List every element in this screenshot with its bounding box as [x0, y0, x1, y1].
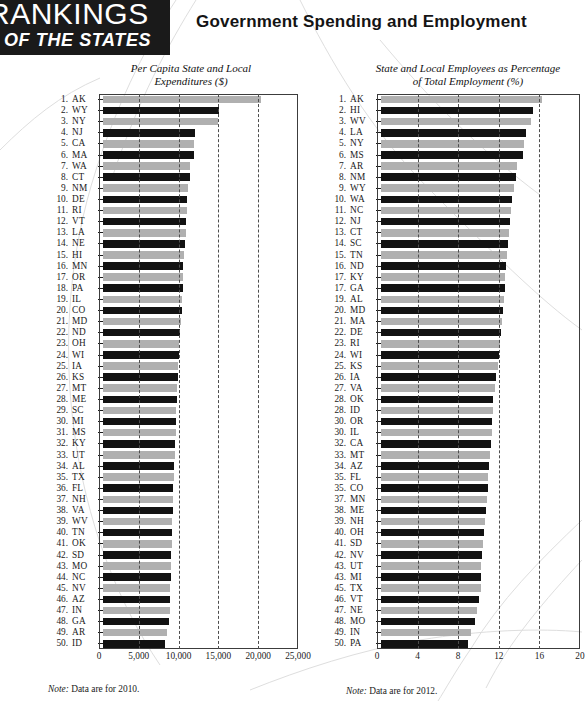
rank-label: 1. — [318, 94, 350, 105]
rank-label: 14. — [318, 238, 350, 249]
chart-right-plot: 1.AK2.HI3.WV4.LA5.NY6.MS7.AR8.NM9.WY10.W… — [318, 94, 580, 665]
chart-row: 40.TN — [40, 527, 298, 538]
bar-track — [381, 294, 580, 305]
chart-row: 34.AZ — [318, 461, 580, 472]
chart-row: 47.IN — [40, 605, 298, 616]
rank-label: 25. — [318, 361, 350, 372]
chart-left-title: Per Capita State and LocalExpenditures (… — [40, 62, 298, 88]
state-label: WY — [72, 105, 98, 116]
chart-row: 50.ID — [40, 638, 298, 649]
note-left: Note: Data are for 2010. — [48, 684, 139, 694]
bar-track — [103, 450, 298, 461]
rank-label: 39. — [318, 516, 350, 527]
bar — [103, 573, 171, 581]
rank-label: 21. — [318, 316, 350, 327]
chart-row: 42.NV — [318, 549, 580, 560]
rank-label: 17. — [40, 272, 72, 283]
bar-track — [103, 494, 298, 505]
state-label: AK — [72, 94, 98, 105]
chart-row: 30.MI — [40, 416, 298, 427]
bar — [103, 518, 172, 526]
note-left-label: Note: — [48, 684, 69, 694]
state-label: MS — [72, 427, 98, 438]
bar — [381, 151, 523, 159]
state-label: CO — [350, 483, 376, 494]
bar-track — [381, 94, 580, 105]
note-left-text: Data are for 2010. — [69, 684, 140, 694]
chart-row: 25.KS — [318, 361, 580, 372]
state-label: RI — [350, 338, 376, 349]
bar-track — [103, 183, 298, 194]
bar-track — [381, 372, 580, 383]
state-label: CA — [350, 438, 376, 449]
bar — [381, 284, 505, 292]
bar-track — [103, 438, 298, 449]
bar-track — [381, 461, 580, 472]
chart-row: 12.VT — [40, 216, 298, 227]
state-label: MT — [350, 450, 376, 461]
rank-label: 33. — [40, 450, 72, 461]
chart-row: 45.TX — [318, 583, 580, 594]
state-label: SC — [72, 405, 98, 416]
bar-track — [103, 616, 298, 627]
bar — [381, 251, 507, 259]
bar-track — [103, 127, 298, 138]
rank-label: 24. — [40, 350, 72, 361]
rank-label: 40. — [40, 527, 72, 538]
chart-row: 3.NY — [40, 116, 298, 127]
rank-label: 19. — [40, 294, 72, 305]
bar — [103, 529, 172, 537]
bar-track — [103, 405, 298, 416]
rank-label: 50. — [40, 638, 72, 649]
state-label: NH — [72, 494, 98, 505]
state-label: IA — [72, 361, 98, 372]
rank-label: 43. — [318, 572, 350, 583]
rank-label: 8. — [318, 172, 350, 183]
bar — [103, 296, 182, 304]
bar-track — [381, 538, 580, 549]
chart-row: 10.WA — [318, 194, 580, 205]
state-label: CA — [72, 138, 98, 149]
bar — [103, 107, 219, 115]
bar — [103, 207, 187, 215]
bar — [381, 296, 504, 304]
state-label: UT — [350, 561, 376, 572]
axis-tick-label: 16 — [535, 651, 544, 661]
bar — [103, 340, 179, 348]
chart-row: 48.GA — [40, 616, 298, 627]
page-title: Government Spending and Employment — [196, 12, 527, 32]
bar — [103, 140, 194, 148]
gridline — [458, 94, 459, 649]
rank-label: 23. — [40, 338, 72, 349]
chart-left-rows: 1.AK2.WY3.NY4.NJ5.CA6.MA7.WA8.CT9.NM10.D… — [40, 94, 298, 649]
state-label: NC — [72, 572, 98, 583]
state-label: NJ — [72, 127, 98, 138]
bar-track — [381, 594, 580, 605]
bar-track — [381, 361, 580, 372]
bar-track — [381, 616, 580, 627]
bar-track — [381, 250, 580, 261]
rank-label: 6. — [318, 150, 350, 161]
bar — [103, 373, 178, 381]
rank-label: 37. — [40, 494, 72, 505]
bar-track — [103, 294, 298, 305]
axis-tick-label: 15,000 — [206, 651, 232, 661]
rank-label: 45. — [318, 583, 350, 594]
state-label: NM — [350, 172, 376, 183]
state-label: PA — [72, 283, 98, 294]
chart-row: 28.ME — [40, 394, 298, 405]
state-label: WV — [350, 116, 376, 127]
brand-title-rankings: RANKINGS — [0, 0, 149, 31]
chart-title-line1: Per Capita State and Local — [84, 62, 298, 75]
bar — [103, 196, 187, 204]
bar-track — [381, 483, 580, 494]
axis-tick-label: 5,000 — [128, 651, 149, 661]
chart-row: 29.SC — [40, 405, 298, 416]
rank-label: 14. — [40, 238, 72, 249]
axis-tick-label: 10,000 — [166, 651, 192, 661]
chart-row: 1.AK — [40, 94, 298, 105]
bar — [381, 596, 479, 604]
state-label: MT — [72, 383, 98, 394]
chart-row: 8.CT — [40, 172, 298, 183]
state-label: OH — [350, 527, 376, 538]
